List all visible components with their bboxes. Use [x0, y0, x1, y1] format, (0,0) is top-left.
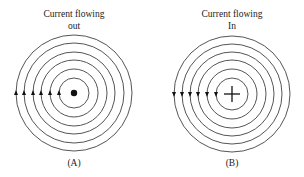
- panel-b-label: (B): [226, 158, 239, 169]
- panel-current-out: Current flowing out (A): [14, 9, 132, 169]
- panel-current-in: Current flowing In (B): [172, 9, 290, 169]
- arrow-down-icon: [172, 92, 176, 97]
- arrow-down-icon: [214, 92, 218, 97]
- arrow-down-icon: [205, 92, 209, 97]
- cross-icon: [224, 86, 240, 102]
- panel-a-title-line1: Current flowing: [44, 9, 105, 19]
- arrow-up-icon: [31, 90, 35, 95]
- arrow-up-icon: [39, 90, 43, 95]
- arrow-down-icon: [180, 92, 184, 97]
- panel-b-title-line1: Current flowing: [202, 9, 263, 19]
- panel-a-label: (A): [67, 158, 80, 169]
- arrow-down-icon: [196, 92, 200, 97]
- arrow-down-icon: [188, 92, 192, 97]
- arrow-up-icon: [14, 90, 18, 95]
- magnetic-field-diagram: Current flowing out (A) Current flowing …: [0, 0, 304, 177]
- panel-a-title-line2: out: [68, 21, 81, 31]
- arrow-up-icon: [48, 90, 52, 95]
- panel-b-title-line2: In: [228, 21, 236, 31]
- arrow-up-icon: [22, 90, 26, 95]
- dot-icon: [71, 90, 77, 96]
- arrow-up-icon: [57, 90, 61, 95]
